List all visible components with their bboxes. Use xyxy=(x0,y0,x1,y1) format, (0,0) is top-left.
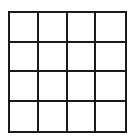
grid-cell xyxy=(39,102,68,132)
grid-cell xyxy=(68,72,97,102)
grid-cell xyxy=(10,72,39,102)
grid-cell xyxy=(96,72,125,102)
grid-cell xyxy=(96,13,125,43)
grid-cell xyxy=(96,102,125,132)
grid-cell xyxy=(10,43,39,73)
grid-cell xyxy=(10,102,39,132)
grid-cell xyxy=(10,13,39,43)
grid-cell xyxy=(96,43,125,73)
grid-cell xyxy=(39,13,68,43)
grid-cell xyxy=(39,72,68,102)
grid-4x4 xyxy=(8,11,127,133)
grid-cell xyxy=(39,43,68,73)
grid-cell xyxy=(68,43,97,73)
grid-cell xyxy=(68,102,97,132)
grid-cell xyxy=(68,13,97,43)
